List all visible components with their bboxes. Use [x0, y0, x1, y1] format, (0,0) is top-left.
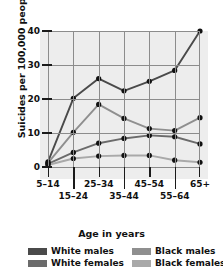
- x-tick-label: 45–54: [135, 179, 165, 189]
- y-tick-label: 0: [18, 163, 40, 171]
- x-tick-mark: [199, 167, 200, 177]
- x-tick-mark: [149, 167, 150, 177]
- x-tick-label: 25–34: [84, 179, 114, 189]
- y-tick-label: 10: [18, 129, 40, 137]
- x-tick-label: 65+: [190, 179, 210, 189]
- legend-item: White females: [28, 258, 124, 268]
- gridline-vertical: [149, 31, 150, 167]
- y-tick-mark: [42, 98, 52, 100]
- plot-canvas: [48, 31, 200, 167]
- y-tick-mark: [42, 132, 52, 134]
- x-tick-label: 5–14: [36, 179, 59, 189]
- x-tick-mark: [175, 167, 176, 189]
- legend-swatch: [132, 248, 151, 255]
- legend-swatch: [132, 260, 151, 267]
- x-tick-mark: [99, 167, 100, 177]
- gridline-vertical: [99, 31, 100, 167]
- x-tick-label: 55–64: [160, 191, 190, 201]
- gridline-vertical: [175, 31, 176, 167]
- gridline-vertical: [199, 31, 200, 167]
- y-tick-label: 40: [18, 27, 40, 35]
- legend-item: Black females: [132, 258, 223, 268]
- x-tick-label: 35–44: [109, 191, 139, 201]
- y-tick-mark: [42, 64, 52, 66]
- y-axis-title: Suicides per 100,000 people: [16, 0, 27, 139]
- legend-swatch: [28, 260, 47, 267]
- legend-item: Black males: [132, 246, 223, 256]
- legend-label: Black females: [155, 258, 223, 268]
- y-tick-mark: [42, 30, 52, 32]
- legend-swatch: [28, 248, 47, 255]
- gridline-vertical: [73, 31, 74, 167]
- x-tick-mark: [48, 167, 49, 177]
- x-tick-mark: [124, 167, 125, 189]
- legend-item: White males: [28, 246, 124, 256]
- legend-label: White males: [51, 246, 114, 256]
- y-tick-label: 30: [18, 61, 40, 69]
- y-tick-label: 20: [18, 95, 40, 103]
- gridline-vertical: [124, 31, 125, 167]
- x-axis-title: Age in years: [0, 228, 223, 239]
- suicide-rate-line-chart: Suicides per 100,000 people 010203040 5–…: [0, 0, 223, 273]
- x-tick-mark: [73, 167, 74, 189]
- y-tick-mark: [42, 166, 52, 168]
- legend-label: Black males: [155, 246, 215, 256]
- plot-area: 010203040 5–1415–2425–3435–4445–5455–646…: [48, 22, 208, 174]
- x-tick-label: 15–24: [59, 191, 89, 201]
- chart-legend: White malesBlack malesWhite femalesBlack…: [28, 246, 208, 268]
- legend-label: White females: [51, 258, 124, 268]
